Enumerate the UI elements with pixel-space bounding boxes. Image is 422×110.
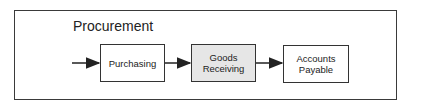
- step-goods-receiving: Goods Receiving: [191, 44, 256, 82]
- step-label: Purchasing: [109, 58, 157, 69]
- step-accounts-payable: Accounts Payable: [283, 45, 349, 83]
- step-label-line2: Payable: [296, 64, 335, 75]
- step-label-line1: Goods: [203, 52, 245, 63]
- step-purchasing: Purchasing: [100, 44, 165, 82]
- step-label-line1: Accounts: [296, 53, 335, 64]
- step-label-line2: Receiving: [203, 63, 245, 74]
